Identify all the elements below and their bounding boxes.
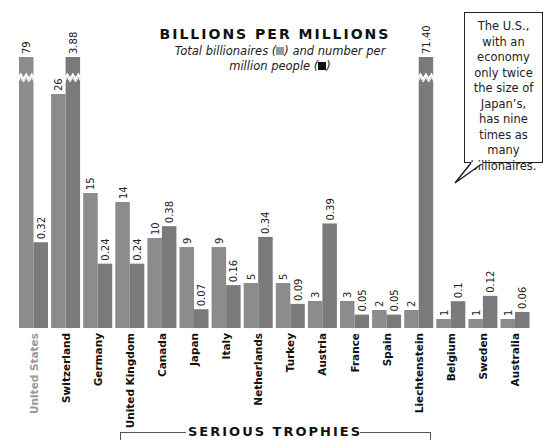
callout-line: the size of	[465, 81, 542, 97]
bar-value-label: 79	[21, 41, 32, 54]
bar-value-label: 10	[150, 222, 161, 235]
bar-value-label: 0.39	[325, 198, 336, 220]
callout-line: The U.S.,	[465, 19, 542, 35]
bar-per-million-14: 0.12	[483, 271, 498, 328]
bar-value-label: 5	[246, 274, 257, 280]
bar-per-million-13: 0.1	[451, 282, 466, 328]
bar-per-million-9: 0.39	[322, 198, 337, 328]
bar-value-label: 0.12	[485, 271, 496, 293]
bar-per-million-3: 0.24	[130, 238, 145, 328]
bar-value-label: 9	[182, 238, 193, 244]
bar-value-label: 2	[374, 301, 385, 307]
bar-value-label: 0.1	[453, 282, 464, 298]
bar-value-label: 26	[53, 78, 64, 91]
bar-value-label: 1	[439, 310, 450, 316]
category-label: Canada	[156, 333, 168, 377]
bar-value-label: 0.07	[196, 284, 207, 306]
bar-total-1: 26	[51, 78, 66, 328]
category-label: Belgium	[445, 333, 457, 381]
bar-per-million-0: 0.32	[34, 217, 49, 328]
callout-line: economy	[465, 50, 542, 66]
bar-value-label: 71.40	[421, 25, 432, 54]
category-label: Liechtenstein	[413, 333, 425, 413]
callout-line: many	[465, 143, 542, 159]
bar-value-label: 0.32	[36, 217, 47, 239]
callout-line: Japan’s,	[465, 97, 542, 113]
section-rule-right	[360, 432, 430, 433]
callout-line: with an	[465, 35, 542, 51]
category-label: Austria	[316, 333, 328, 376]
callout-box: The U.S.,with aneconomyonly twicethe siz…	[464, 12, 543, 163]
category-label: Turkey	[284, 333, 296, 372]
category-label: Germany	[92, 333, 104, 386]
bar-total-13: 1	[436, 310, 451, 328]
bar-per-million-6: 0.16	[226, 260, 241, 328]
callout-line: only twice	[465, 66, 542, 82]
bar-value-label: 0.09	[293, 279, 304, 301]
bar-total-6: 9	[212, 238, 227, 328]
bar-value-label: 15	[85, 177, 96, 190]
category-label: Australia	[509, 333, 521, 386]
callout-tail	[450, 160, 490, 190]
bar-per-million-2: 0.24	[98, 238, 113, 328]
callout-line: times as	[465, 128, 542, 144]
bar-value-label: 3.88	[68, 32, 79, 54]
bar-value-label: 3	[342, 292, 353, 298]
category-label: France	[349, 333, 361, 373]
bar-value-label: 3	[310, 292, 321, 298]
category-label: United Kingdom	[124, 333, 136, 428]
bar-value-label: 0.05	[357, 289, 368, 311]
bar-total-4: 10	[147, 222, 162, 328]
bar-total-7: 5	[244, 274, 259, 328]
category-label: Netherlands	[252, 333, 264, 406]
bar-value-label: 0.06	[517, 287, 528, 309]
bar-total-8: 5	[276, 274, 291, 328]
bar-value-label: 0.16	[228, 260, 239, 282]
bar-total-12: 2	[404, 301, 419, 328]
category-label: Switzerland	[60, 333, 72, 403]
bar-value-label: 1	[503, 310, 514, 316]
bar-value-label: 0.24	[100, 238, 111, 260]
category-label: United States	[28, 333, 40, 414]
bar-total-3: 14	[115, 186, 130, 328]
bar-total-9: 3	[308, 292, 323, 328]
bar-value-label: 5	[278, 274, 289, 280]
bar-value-label: 14	[118, 186, 129, 199]
bar-per-million-10: 0.05	[355, 289, 370, 328]
bar-value-label: 0.38	[164, 201, 175, 223]
bar-per-million-5: 0.07	[194, 284, 209, 328]
bar-total-15: 1	[501, 310, 516, 328]
bar-total-5: 9	[180, 238, 195, 328]
section-rule-right-tick	[430, 432, 431, 440]
bar-per-million-7: 0.34	[258, 212, 273, 328]
bar-value-label: 1	[471, 310, 482, 316]
bar-per-million-8: 0.09	[290, 279, 305, 328]
bar-per-million-11: 0.05	[387, 289, 402, 328]
bar-value-label: 0.05	[389, 289, 400, 311]
bar-total-10: 3	[340, 292, 355, 328]
bar-per-million-4: 0.38	[162, 201, 177, 328]
bar-total-11: 2	[372, 301, 387, 328]
category-label: Japan	[188, 333, 200, 367]
bar-per-million-15: 0.06	[515, 287, 530, 328]
bar-per-million-12: 71.40	[418, 25, 435, 328]
category-label: Sweden	[477, 333, 489, 380]
bar-total-0: 79	[18, 41, 35, 328]
callout-line: has nine	[465, 112, 542, 128]
bar-value-label: 0.24	[132, 238, 143, 260]
bar-total-2: 15	[83, 177, 98, 328]
category-label: Spain	[381, 333, 393, 366]
category-label: Italy	[220, 333, 232, 360]
bar-total-14: 1	[468, 310, 483, 328]
bar-value-label: 2	[406, 301, 417, 307]
bar-per-million-1: 3.88	[65, 32, 82, 328]
bar-value-label: 9	[214, 238, 225, 244]
bar-value-label: 0.34	[260, 212, 271, 234]
